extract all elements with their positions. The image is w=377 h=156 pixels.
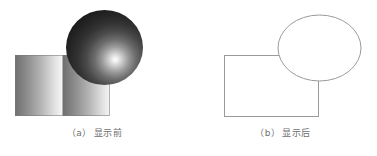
panel-b-caption: （b）显示后 [189, 126, 377, 140]
shaded-sphere-shape [66, 10, 143, 85]
figure-panel-a: （a）显示前 [0, 0, 189, 156]
panel-b-wireframe [189, 0, 377, 126]
panel-b-canvas [189, 0, 377, 126]
outline-ellipse-shape [278, 15, 361, 81]
panel-b-caption-label: （b） [255, 128, 280, 138]
figure-panel-b: （b）显示后 [189, 0, 377, 156]
panel-a-caption-label: （a） [67, 128, 92, 138]
panel-a-caption-text: 显示前 [94, 128, 123, 138]
panel-a-caption: （a）显示前 [0, 126, 189, 140]
panel-a-canvas [0, 0, 189, 126]
figure-root: （a）显示前 （b）显示后 [0, 0, 377, 156]
panel-b-caption-text: 显示后 [282, 128, 311, 138]
